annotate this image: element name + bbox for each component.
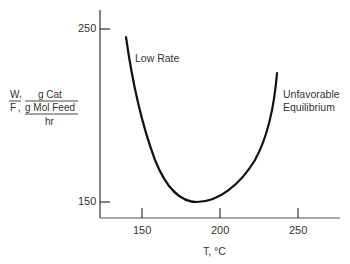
x-tick-label-150: 150 [133, 224, 151, 236]
y-tick-label-250: 250 [78, 22, 96, 34]
y-tick-label-150: 150 [78, 195, 96, 207]
y-label-gcat: g Cat [38, 89, 62, 100]
x-tick-label-250: 250 [289, 224, 307, 236]
x-axis-label: T, °C [203, 245, 226, 257]
annotation-low-rate: Low Rate [135, 52, 179, 65]
x-tick-label-200: 200 [211, 224, 229, 236]
y-label-F: F [10, 102, 16, 113]
annotation-equilibrium: Equilibrium [283, 101, 335, 114]
annotation-unfavorable: Unfavorable [283, 88, 340, 101]
y-label-gmolfeed: g Mol Feed [25, 102, 75, 113]
y-label-comma2: , [18, 102, 21, 113]
y-label-hr: hr [45, 116, 54, 127]
y-label-comma1: , [19, 88, 22, 99]
